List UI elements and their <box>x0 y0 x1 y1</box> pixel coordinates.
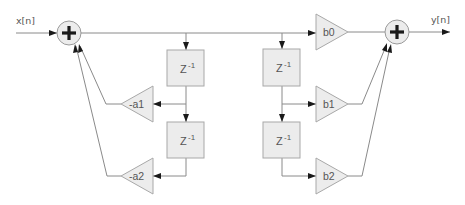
svg-text:Z: Z <box>276 135 283 147</box>
feedback-wire-2 <box>76 46 121 176</box>
delay-block-4: Z -1 <box>263 122 300 158</box>
arrow-icon <box>73 44 78 53</box>
arrow-icon <box>153 173 161 179</box>
gain-b1: b1 <box>316 86 348 122</box>
arrow-icon <box>279 41 285 49</box>
feedforward-wire-1 <box>348 46 386 104</box>
svg-text:-1: -1 <box>284 60 292 69</box>
svg-text:b0: b0 <box>323 26 335 38</box>
input-adder <box>57 21 81 45</box>
arrow-icon <box>279 114 285 122</box>
svg-text:-1: -1 <box>284 133 292 142</box>
gain-neg-a1: -a1 <box>121 86 153 122</box>
svg-text:-a2: -a2 <box>129 170 144 182</box>
svg-text:-1: -1 <box>188 61 196 70</box>
arrow-icon <box>183 42 189 50</box>
input-label: x[n] <box>16 15 35 26</box>
svg-text:Z: Z <box>276 62 283 74</box>
delay-block-3: Z -1 <box>263 49 300 86</box>
feedforward-wire-2 <box>348 47 390 176</box>
gain-b2: b2 <box>316 158 348 194</box>
gain-b0: b0 <box>316 14 348 50</box>
svg-text:Z: Z <box>180 135 187 147</box>
output-adder <box>385 20 409 44</box>
biquad-diagram: x[n] Z -1 Z -1 -a1 -a2 <box>0 0 465 205</box>
svg-text:-a1: -a1 <box>129 98 144 110</box>
arrow-icon <box>382 43 387 52</box>
arrow-icon <box>308 30 316 36</box>
arrow-icon <box>308 101 316 107</box>
gain-neg-a2: -a2 <box>121 158 153 194</box>
svg-text:Z: Z <box>180 63 187 75</box>
feedback-wire-1 <box>80 46 121 104</box>
delay-block-2: Z -1 <box>167 122 204 158</box>
arrow-icon <box>387 44 392 53</box>
output-label: y[n] <box>431 14 450 25</box>
svg-text:b2: b2 <box>323 170 335 182</box>
delay-block-1: Z -1 <box>167 50 204 86</box>
arrow-icon <box>183 114 189 122</box>
wire <box>282 158 316 176</box>
arrow-icon <box>308 173 316 179</box>
wire <box>153 158 186 176</box>
svg-text:-1: -1 <box>188 133 196 142</box>
arrow-icon <box>49 30 57 36</box>
svg-text:b1: b1 <box>323 98 335 110</box>
arrow-icon <box>442 29 450 35</box>
arrow-icon <box>153 101 161 107</box>
